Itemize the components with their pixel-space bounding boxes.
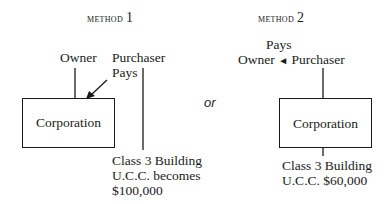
method1-title-word: Method xyxy=(87,12,123,24)
method2-payment-row: Owner ◄ Purchaser xyxy=(238,52,345,68)
method1-caption-line-2: U.C.C. becomes xyxy=(112,168,201,183)
left-arrow-icon: ◄ xyxy=(278,55,288,66)
method1-corporation-label: Corporation xyxy=(23,115,114,131)
method2-title-word: Method xyxy=(258,12,294,24)
method1-owner-label: Owner xyxy=(60,50,97,65)
method2-pays-label: Pays xyxy=(266,37,292,52)
method1-corporation-box: Corporation xyxy=(22,98,115,148)
method1-caption-line-1: Class 3 Building xyxy=(112,153,202,168)
or-connector-label: or xyxy=(204,95,216,110)
pays-arrow-line xyxy=(91,80,107,95)
method1-title: Method 1 xyxy=(87,10,133,26)
method1-caption-line-3: $100,000 xyxy=(112,183,163,198)
method2-title-number: 2 xyxy=(297,10,304,25)
method2-corporation-label: Corporation xyxy=(280,116,371,132)
method1-title-number: 1 xyxy=(126,10,133,25)
method2-caption-line-1: Class 3 Building xyxy=(282,158,372,173)
method2-purchaser-label: Purchaser xyxy=(291,52,344,67)
method1-purchaser-label: Purchaser xyxy=(112,50,165,65)
method2-title: Method 2 xyxy=(258,10,304,26)
method2-owner-label: Owner xyxy=(238,52,275,67)
method2-caption-line-2: U.C.C. $60,000 xyxy=(282,173,367,188)
method2-corporation-box: Corporation xyxy=(279,98,372,148)
method1-pays-label: Pays xyxy=(112,65,138,80)
